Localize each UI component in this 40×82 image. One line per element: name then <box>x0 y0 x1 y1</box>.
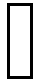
rectangle-outline <box>7 3 33 79</box>
canvas <box>0 0 40 82</box>
